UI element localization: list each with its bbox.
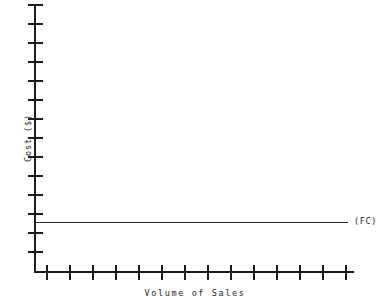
- chart-figure: Cost ($) Volume of Sales (FC): [0, 0, 386, 308]
- chart-plot-area: [0, 0, 386, 308]
- fixed-cost-label: (FC): [354, 216, 377, 226]
- y-axis-title-wrapper: Cost ($): [4, 133, 52, 143]
- y-axis-title: Cost ($): [23, 114, 33, 162]
- x-axis-title: Volume of Sales: [35, 288, 355, 298]
